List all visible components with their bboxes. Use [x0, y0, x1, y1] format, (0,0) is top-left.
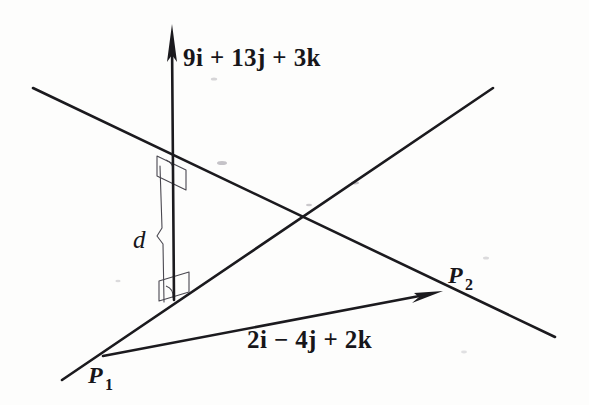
point-p1-base: P [87, 362, 103, 388]
diagram-canvas: 9i + 13j + 3k 2i − 4j + 2k d P 1 P 2 [0, 0, 589, 405]
vector-distance-diagram: 9i + 13j + 3k 2i − 4j + 2k d P 1 P 2 [0, 0, 589, 405]
point-p1-subscript: 1 [105, 376, 113, 393]
right-angle-marker-top [157, 156, 186, 190]
upper-skew-line [33, 88, 555, 337]
direction-vector-label: 2i − 4j + 2k [247, 326, 372, 353]
point-p1-label: P 1 [87, 362, 113, 393]
point-p2-base: P [447, 262, 463, 288]
distance-label: d [133, 226, 146, 253]
normal-vector-label: 9i + 13j + 3k [183, 44, 321, 71]
distance-segment [157, 166, 164, 302]
point-p2-subscript: 2 [465, 276, 473, 293]
